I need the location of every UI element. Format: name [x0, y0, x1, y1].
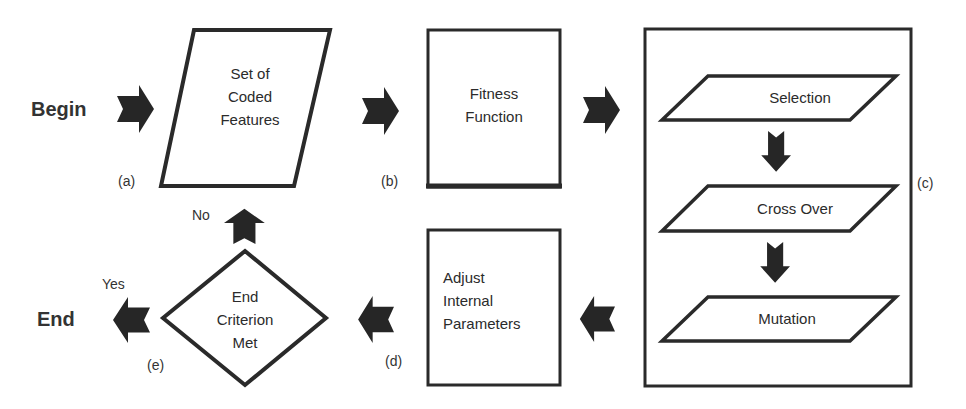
tag-a: (a) [118, 174, 135, 188]
label-line: Features [205, 108, 295, 131]
tag-c: (c) [917, 176, 933, 190]
flowchart-canvas: Begin End Set of Coded Features (a) Fitn… [0, 0, 966, 409]
tag-e: (e) [147, 358, 164, 372]
branch-no-label: No [192, 208, 210, 222]
label-line: Function [449, 105, 539, 128]
arrow-left-icon [580, 296, 615, 342]
arrow-right-icon [583, 86, 620, 134]
selection-label: Selection [730, 90, 870, 105]
label-line: End [200, 285, 290, 308]
begin-terminal: Begin [31, 99, 87, 119]
arrow-right-icon [117, 85, 154, 133]
label-line: Fitness [449, 82, 539, 105]
label-line: Met [200, 331, 290, 354]
label-line: Coded [205, 85, 295, 108]
tag-b: (b) [381, 174, 398, 188]
fitness-function-label: Fitness Function [449, 82, 539, 128]
adjust-parameters-label: Adjust Internal Parameters [443, 266, 521, 335]
mutation-label: Mutation [717, 311, 857, 326]
tag-d: (d) [385, 354, 402, 368]
label-line: Parameters [443, 312, 521, 335]
arrow-up-icon [224, 209, 265, 244]
coded-features-label: Set of Coded Features [205, 62, 295, 131]
arrow-left-icon [113, 297, 150, 343]
label-line: Internal [443, 289, 521, 312]
branch-yes-label: Yes [102, 277, 125, 291]
cross-over-label: Cross Over [725, 201, 865, 216]
label-line: Adjust [443, 266, 521, 289]
label-line: Criterion [200, 308, 290, 331]
arrow-right-icon [362, 87, 399, 135]
end-criterion-label: End Criterion Met [200, 285, 290, 354]
label-line: Set of [205, 62, 295, 85]
end-terminal: End [37, 309, 75, 329]
arrow-left-icon [358, 296, 394, 343]
